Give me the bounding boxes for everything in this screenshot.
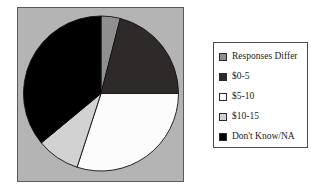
legend-item[interactable]: Responses Differ xyxy=(219,47,307,67)
legend-item[interactable]: $10-15 xyxy=(219,107,307,127)
pie-slice-group xyxy=(24,16,179,171)
pie-chart xyxy=(17,7,186,184)
legend-item[interactable]: Don't Know/NA xyxy=(219,127,307,147)
legend-item-label: Responses Differ xyxy=(232,52,298,62)
legend-swatch-5-10 xyxy=(219,93,227,101)
legend-swatch-dont-know-na xyxy=(219,133,227,141)
legend-swatch-responses-differ xyxy=(219,53,227,61)
legend-item-label: $5-10 xyxy=(232,92,254,102)
legend-item[interactable]: $5-10 xyxy=(219,87,307,107)
legend-item-label: $10-15 xyxy=(232,112,259,122)
legend-item[interactable]: $0-5 xyxy=(219,67,307,87)
legend-swatch-0-5 xyxy=(219,73,227,81)
legend-swatch-10-15 xyxy=(219,113,227,121)
legend-item-label: $0-5 xyxy=(232,72,249,82)
pie-chart-figure: Responses Differ $0-5 $5-10 $10-15 Don't… xyxy=(0,0,311,192)
legend-item-label: Don't Know/NA xyxy=(232,132,295,142)
chart-legend: Responses Differ $0-5 $5-10 $10-15 Don't… xyxy=(213,42,308,148)
